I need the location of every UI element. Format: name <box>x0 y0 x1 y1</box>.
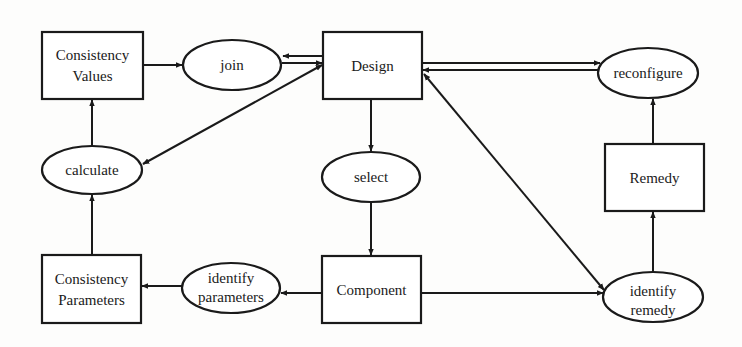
node-label: Remedy <box>630 170 680 186</box>
node-design: Design <box>323 32 422 99</box>
node-remedy: Remedy <box>605 144 704 211</box>
node-label: calculate <box>65 162 119 178</box>
diagram-canvas: Consistency Values join Design reconfigu… <box>0 0 742 347</box>
node-consistency-parameters: Consistency Parameters <box>42 255 141 323</box>
node-label: Design <box>351 58 394 74</box>
node-label: Consistency <box>55 271 129 287</box>
node-calculate: calculate <box>42 146 142 194</box>
node-identify-remedy: identify remedy <box>603 272 703 322</box>
node-label: Consistency <box>56 47 130 63</box>
node-label: parameters <box>198 289 264 305</box>
node-label: Component <box>337 282 408 298</box>
node-component: Component <box>322 256 421 323</box>
flow-diagram: Consistency Values join Design reconfigu… <box>0 0 742 347</box>
node-label: join <box>219 57 244 73</box>
node-label: Values <box>73 68 113 84</box>
node-select: select <box>322 152 420 202</box>
node-reconfigure: reconfigure <box>598 48 698 98</box>
node-label: identify <box>208 270 255 286</box>
node-join: join <box>183 40 281 90</box>
node-consistency-values: Consistency Values <box>42 32 143 99</box>
node-label: select <box>354 169 389 185</box>
node-label: identify <box>630 283 677 299</box>
node-label: reconfigure <box>613 65 682 81</box>
node-identify-parameters: identify parameters <box>182 263 280 313</box>
node-label: remedy <box>631 302 676 318</box>
edge-design-identify-remedy <box>424 74 604 290</box>
node-label: Parameters <box>58 292 125 308</box>
